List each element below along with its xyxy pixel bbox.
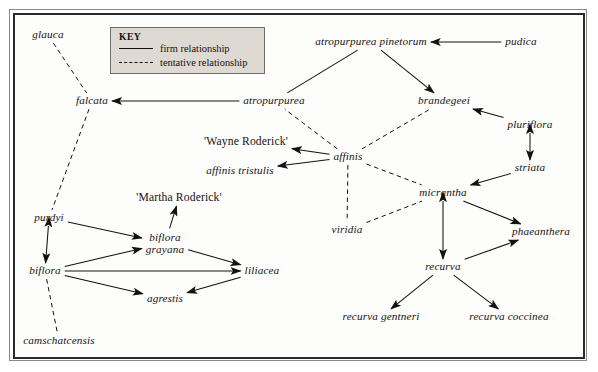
node-label-glauca: glauca xyxy=(32,29,63,41)
node-label-recurva-coccinea: recurva coccinea xyxy=(469,311,548,323)
edge-affinis-to-wayne-roderick xyxy=(292,149,330,155)
firm-line-swatch xyxy=(119,48,153,49)
node-label-line: viridia xyxy=(332,224,363,236)
node-label-line: recurva gentneri xyxy=(343,311,420,323)
edge-glauca-to-falcata xyxy=(53,43,86,93)
node-label-line: 'Wayne Roderick' xyxy=(204,136,288,148)
node-label-biflora: biflora xyxy=(29,265,61,277)
edge-falcata-to-purdyi xyxy=(52,109,89,210)
node-label-line: glauca xyxy=(32,29,63,41)
node-label-atropurpurea: atropurpurea xyxy=(243,95,304,107)
edge-recurva-to-phaeanthera xyxy=(465,240,519,259)
key-legend-box: KEY firm relationship tentative relation… xyxy=(110,27,265,74)
node-label-biflora-grayana: bifloragrayana xyxy=(146,231,184,256)
edge-recurva-to-recurva-coccinea xyxy=(454,275,499,309)
node-label-camschatcensis: camschatcensis xyxy=(23,335,95,347)
node-label-line: liliacea xyxy=(245,265,280,277)
node-label-pluriflora: pluriflora xyxy=(507,119,552,131)
edge-pluriflora-to-brandegeei xyxy=(473,109,503,118)
key-entry-tentative: tentative relationship xyxy=(119,57,247,68)
node-label-line: atropurpurea xyxy=(243,95,304,107)
node-label-line: affinis xyxy=(333,151,362,163)
edge-biflora-to-biflora-grayana xyxy=(65,248,142,266)
node-label-phaeanthera: phaeanthera xyxy=(512,226,570,238)
node-label-wayne-roderick: 'Wayne Roderick' xyxy=(204,136,288,148)
key-entry-firm-label: firm relationship xyxy=(160,43,230,54)
node-label-line: micrantha xyxy=(419,187,466,199)
node-label-recurva: recurva xyxy=(425,261,460,273)
edge-biflora-grayana-to-martha-roderick xyxy=(170,206,177,228)
key-title: KEY xyxy=(119,31,141,42)
node-label-agrestis: agrestis xyxy=(147,293,183,305)
edge-atropurpurea-pinetorum-to-brandegeei xyxy=(381,50,434,93)
node-label-line: pudica xyxy=(505,36,536,48)
node-label-martha-roderick: 'Martha Roderick' xyxy=(136,192,222,204)
edge-striata-to-micrantha xyxy=(471,174,511,186)
tentative-line-swatch xyxy=(119,62,153,63)
node-label-line: 'Martha Roderick' xyxy=(136,192,222,204)
edge-atropurpurea-to-atropurpurea-pinetorum xyxy=(287,50,357,93)
node-label-line: agrestis xyxy=(147,293,183,305)
node-label-line: striata xyxy=(515,162,545,174)
node-label-line: atropurpurea pinetorum xyxy=(315,36,427,48)
edge-micrantha-to-phaeanthera xyxy=(463,201,520,224)
key-entry-firm: firm relationship xyxy=(119,43,230,54)
node-label-affinis: affinis xyxy=(333,151,362,163)
node-label-micrantha: micrantha xyxy=(419,187,466,199)
edge-purdyi-to-biflora-grayana xyxy=(68,222,142,238)
node-label-line: affinis tristulis xyxy=(206,165,274,177)
node-label-line: grayana xyxy=(146,243,184,255)
node-label-line: camschatcensis xyxy=(23,335,95,347)
relationship-diagram-figure: glaucafalcataatropurpureaatropurpurea pi… xyxy=(0,0,598,372)
node-label-pudica: pudica xyxy=(505,36,536,48)
edge-affinis-to-viridia xyxy=(347,165,348,222)
node-label-atropurpurea-pinetorum: atropurpurea pinetorum xyxy=(315,36,427,48)
edge-affinis-to-atropurpurea xyxy=(285,109,338,149)
node-label-affinis-tristulis: affinis tristulis xyxy=(206,165,274,177)
node-label-line: biflora xyxy=(146,231,184,243)
key-entry-tentative-label: tentative relationship xyxy=(160,57,247,68)
node-label-brandegeei: brandegeei xyxy=(418,95,470,107)
node-label-line: brandegeei xyxy=(418,95,470,107)
edge-purdyi-to-biflora xyxy=(46,226,49,263)
node-label-line: biflora xyxy=(29,265,61,277)
node-label-purdyi: purdyi xyxy=(34,212,64,224)
node-label-line: recurva xyxy=(425,261,460,273)
edge-affinis-to-micrantha xyxy=(367,164,422,185)
edge-biflora-grayana-to-liliacea xyxy=(188,250,240,265)
node-label-line: recurva coccinea xyxy=(469,311,548,323)
node-label-falcata: falcata xyxy=(76,95,108,107)
node-label-line: phaeanthera xyxy=(512,226,570,238)
node-label-striata: striata xyxy=(515,162,545,174)
edge-biflora-to-agrestis xyxy=(65,276,143,294)
edge-liliacea-to-agrestis xyxy=(187,277,241,292)
edge-affinis-to-brandegeei xyxy=(362,109,430,149)
node-label-liliacea: liliacea xyxy=(245,265,280,277)
edge-biflora-to-camschatcensis xyxy=(47,279,58,333)
node-label-line: falcata xyxy=(76,95,108,107)
node-label-line: purdyi xyxy=(34,212,64,224)
edge-viridia-to-micrantha xyxy=(366,201,422,222)
node-label-viridia: viridia xyxy=(332,224,363,236)
node-label-line: pluriflora xyxy=(507,119,552,131)
edge-recurva-to-recurva-gentneri xyxy=(391,275,433,309)
edge-affinis-to-affinis-tristulis xyxy=(278,159,330,166)
node-label-recurva-gentneri: recurva gentneri xyxy=(343,311,420,323)
